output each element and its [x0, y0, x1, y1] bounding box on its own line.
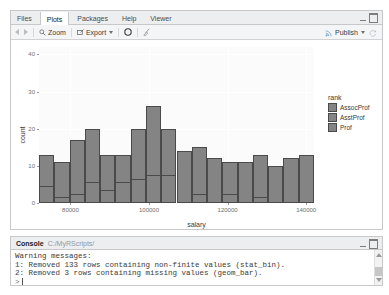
x-tick-label: 140000 [296, 207, 316, 213]
plots-pane: Files Plots Packages Help Viewer Zoom [10, 10, 383, 230]
zoom-button[interactable]: Zoom [39, 29, 66, 36]
y-tick-mark [37, 92, 39, 93]
minimize-icon[interactable] [360, 15, 366, 21]
remove-plot-icon[interactable] [124, 28, 132, 36]
x-tick-label: 100000 [139, 207, 159, 213]
console-title: Console [16, 240, 44, 247]
y-tick-label: 10 [28, 163, 35, 169]
console-working-directory[interactable]: C:/MyRScripts/ [48, 240, 95, 247]
console-line: 2: Removed 3 rows containing missing val… [15, 269, 382, 278]
arrow-right-icon[interactable] [24, 29, 28, 35]
x-tick-mark [228, 203, 229, 205]
histogram-bar [54, 162, 69, 203]
x-tick-mark [306, 203, 307, 205]
histogram-bar [115, 155, 130, 203]
console-pane: Console C:/MyRScripts/ Warning messages:… [10, 236, 383, 286]
y-tick-label: 30 [28, 89, 35, 95]
console-cursor [22, 278, 23, 285]
tab-help[interactable]: Help [116, 11, 142, 24]
publish-icon [325, 29, 333, 37]
histogram-bar [299, 155, 314, 203]
minimize-icon[interactable] [360, 241, 366, 247]
plot-output-area: 010203040 80000100000120000140000 count … [11, 41, 382, 229]
bar-segment-divider [132, 179, 145, 180]
histogram-bar [238, 162, 253, 203]
plots-tabbar: Files Plots Packages Help Viewer [11, 11, 382, 25]
arrow-left-icon[interactable] [15, 29, 19, 35]
y-tick-label: 40 [28, 51, 35, 57]
gridline-horizontal [39, 129, 314, 130]
y-tick-mark [37, 54, 39, 55]
chart-legend: rank AssocProfAsstProfProf [328, 94, 370, 133]
zoom-label: Zoom [48, 29, 66, 36]
console-line: 1: Removed 133 rows containing non-finit… [15, 261, 382, 270]
histogram-bar [70, 140, 85, 203]
bar-segment-divider [116, 182, 129, 183]
legend-entries: AssocProfAsstProfProf [328, 103, 370, 132]
bar-segment-divider [162, 175, 175, 176]
bar-segment-divider [86, 182, 99, 183]
legend-color-swatch [328, 123, 337, 132]
tab-packages[interactable]: Packages [71, 11, 114, 24]
refresh-icon[interactable] [369, 29, 377, 37]
console-prompt-line: > [15, 278, 382, 285]
x-tick-mark [149, 203, 150, 205]
maximize-icon[interactable] [369, 239, 378, 249]
bar-segment-divider [193, 194, 206, 195]
histogram-bar [268, 166, 283, 203]
histogram-bar [253, 155, 268, 203]
tab-files[interactable]: Files [11, 11, 38, 24]
gridline-horizontal [39, 203, 314, 204]
y-tick-mark [37, 203, 39, 204]
histogram-bar [222, 162, 237, 203]
console-header: Console C:/MyRScripts/ [11, 237, 382, 250]
publish-button[interactable]: Publish [325, 29, 365, 37]
export-button[interactable]: Export [77, 29, 113, 36]
histogram-bar [100, 155, 115, 203]
chevron-down-icon[interactable] [109, 31, 113, 34]
bar-segment-divider [40, 186, 53, 187]
bar-segment-divider [101, 190, 114, 191]
y-tick-mark [37, 129, 39, 130]
gridline-horizontal [39, 54, 314, 55]
scroll-up-icon[interactable] [376, 253, 382, 257]
console-output[interactable]: Warning messages: 1: Removed 133 rows co… [11, 250, 382, 285]
tab-plots[interactable]: Plots [40, 12, 70, 25]
x-tick-label: 80000 [62, 207, 79, 213]
histogram-bar [146, 106, 161, 203]
legend-label: AssocProf [340, 104, 370, 111]
bar-segment-divider [254, 197, 267, 198]
broom-icon[interactable] [143, 28, 151, 36]
scrollbar-thumb[interactable] [375, 267, 382, 276]
console-scrollbar[interactable] [374, 250, 382, 285]
bar-segment-divider [55, 197, 68, 198]
histogram-bar [192, 147, 207, 203]
legend-title: rank [328, 94, 370, 101]
magnifier-icon [39, 29, 46, 36]
histogram-bar [177, 151, 192, 203]
legend-entry: AssocProf [328, 103, 370, 112]
x-tick-mark [70, 203, 71, 205]
toolbar-divider [137, 28, 138, 37]
legend-entry: AsstProf [328, 113, 370, 122]
y-axis-title: count [19, 126, 26, 143]
bar-segment-divider [223, 194, 236, 195]
y-tick-label: 0 [32, 200, 35, 206]
histogram-bar [207, 158, 222, 203]
histogram-bar [161, 129, 176, 203]
maximize-icon[interactable] [369, 13, 378, 23]
chevron-down-icon[interactable] [361, 31, 365, 34]
legend-label: Prof [340, 124, 352, 131]
bar-segment-divider [147, 175, 160, 176]
histogram-bar [131, 129, 146, 203]
toolbar-divider [33, 28, 34, 37]
console-window-controls [360, 239, 378, 249]
publish-label: Publish [335, 29, 358, 36]
export-icon [77, 29, 84, 36]
histogram-bar [39, 155, 54, 203]
legend-entry: Prof [328, 123, 370, 132]
scroll-down-icon[interactable] [376, 278, 382, 282]
console-prompt: > [15, 278, 20, 285]
gridline-horizontal [39, 92, 314, 93]
tab-viewer[interactable]: Viewer [144, 11, 177, 24]
